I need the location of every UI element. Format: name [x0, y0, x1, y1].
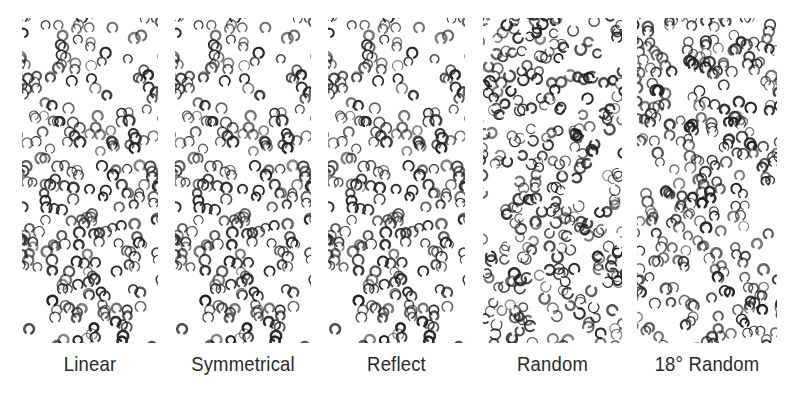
c-glyph	[294, 18, 302, 23]
c-glyph	[764, 229, 773, 238]
c-glyph	[96, 147, 105, 155]
c-glyph	[758, 305, 767, 314]
c-glyph	[749, 326, 758, 334]
c-glyph	[194, 21, 203, 29]
c-glyph	[72, 24, 81, 33]
c-glyph	[362, 40, 372, 49]
c-glyph	[574, 308, 584, 318]
c-glyph	[518, 151, 526, 160]
c-glyph	[529, 237, 538, 246]
c-glyph	[719, 80, 729, 89]
c-glyph	[599, 78, 608, 86]
c-glyph	[112, 304, 121, 313]
c-glyph	[373, 76, 383, 86]
c-glyph	[246, 111, 256, 121]
c-glyph	[175, 202, 181, 211]
c-glyph	[359, 341, 367, 343]
c-glyph	[269, 116, 280, 126]
c-glyph	[496, 151, 505, 161]
c-glyph	[379, 280, 389, 289]
c-glyph	[455, 131, 465, 141]
panel-reflect	[328, 18, 465, 343]
c-glyph	[98, 57, 106, 65]
c-glyph	[490, 339, 499, 343]
c-glyph	[637, 264, 645, 274]
c-glyph	[464, 87, 465, 96]
c-glyph	[637, 63, 640, 71]
c-glyph	[740, 201, 749, 209]
c-glyph	[596, 225, 606, 235]
c-glyph	[68, 194, 79, 204]
c-glyph	[369, 103, 380, 113]
c-glyph	[588, 303, 598, 313]
c-glyph	[392, 61, 403, 71]
c-glyph	[645, 273, 654, 281]
c-glyph	[300, 342, 309, 343]
c-pattern-18-random	[637, 18, 777, 343]
c-glyph	[667, 67, 677, 76]
c-glyph	[642, 196, 653, 206]
c-glyph	[637, 313, 642, 322]
c-glyph	[198, 144, 207, 153]
c-glyph	[660, 99, 670, 109]
c-glyph	[72, 314, 81, 322]
c-glyph	[429, 305, 439, 314]
c-glyph	[404, 57, 412, 65]
c-glyph	[207, 21, 216, 30]
c-glyph	[649, 298, 660, 308]
c-glyph	[559, 230, 568, 239]
c-glyph	[354, 266, 363, 275]
c-glyph	[515, 328, 523, 336]
c-glyph	[175, 29, 181, 37]
c-glyph	[34, 227, 45, 237]
c-glyph	[637, 321, 638, 329]
c-glyph	[758, 142, 768, 152]
c-glyph	[447, 18, 455, 23]
c-glyph	[310, 87, 311, 96]
c-glyph	[60, 161, 69, 170]
c-glyph	[606, 18, 615, 21]
c-glyph	[764, 81, 774, 90]
c-glyph	[66, 76, 76, 86]
c-glyph	[423, 116, 434, 126]
c-glyph	[745, 103, 756, 113]
c-glyph	[665, 120, 675, 129]
c-glyph	[756, 58, 765, 66]
c-glyph	[733, 305, 743, 314]
c-glyph	[731, 184, 741, 194]
c-glyph	[90, 323, 99, 331]
c-glyph	[206, 341, 214, 343]
c-glyph	[142, 105, 151, 113]
c-glyph	[87, 74, 96, 83]
c-glyph	[405, 192, 414, 200]
c-glyph	[528, 136, 538, 146]
c-glyph	[389, 250, 398, 258]
c-glyph	[526, 124, 535, 133]
c-glyph	[259, 126, 268, 134]
c-glyph	[656, 242, 666, 251]
c-glyph	[617, 116, 622, 124]
label-random: Random	[491, 352, 613, 380]
c-glyph	[295, 105, 304, 113]
c-glyph	[573, 173, 581, 182]
c-glyph	[283, 200, 292, 208]
c-glyph	[130, 262, 140, 271]
c-glyph	[603, 277, 613, 287]
c-glyph	[47, 255, 58, 265]
c-glyph	[566, 301, 575, 310]
c-glyph	[354, 296, 364, 305]
c-glyph	[535, 270, 544, 280]
c-glyph	[124, 55, 132, 63]
c-glyph	[265, 266, 275, 276]
c-glyph	[237, 23, 246, 32]
c-glyph	[73, 336, 81, 343]
c-glyph	[610, 341, 619, 343]
c-glyph	[221, 194, 232, 204]
c-glyph	[545, 242, 555, 251]
c-glyph	[711, 248, 721, 257]
c-glyph	[652, 229, 661, 238]
c-glyph	[157, 87, 158, 96]
c-glyph	[156, 18, 158, 26]
c-glyph	[251, 57, 259, 65]
c-glyph	[73, 35, 82, 44]
